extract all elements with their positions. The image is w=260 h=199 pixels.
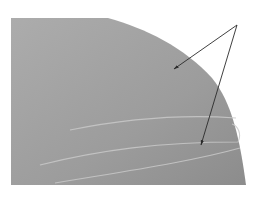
diagram-figure: [0, 0, 260, 199]
arrow-to-upper-region: [174, 25, 237, 69]
